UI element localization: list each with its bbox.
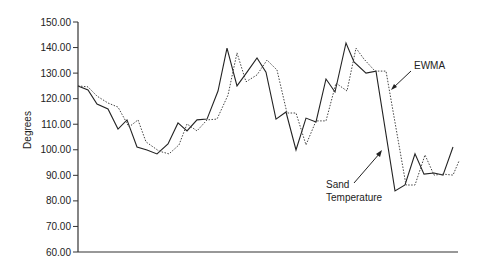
series-ewma <box>78 48 459 185</box>
series-sand-temperature <box>78 43 453 191</box>
y-tick-label: 110.00 <box>41 119 71 130</box>
y-tick-label: 130.00 <box>40 68 71 79</box>
y-tick-label: 140.00 <box>40 42 71 53</box>
y-tick-label: 60.00 <box>46 247 71 258</box>
y-tick-label: 90.00 <box>46 170 71 181</box>
line-chart: 150.00140.00130.00120.00110.00100.0090.0… <box>0 0 481 272</box>
arrow-ewma <box>393 71 411 88</box>
arrow-sand <box>354 153 380 183</box>
annotation-ewma: EWMA <box>414 60 445 71</box>
y-tick-label: 150.00 <box>40 17 71 28</box>
y-tick-label: 70.00 <box>46 221 71 232</box>
annotation-sand: Sand <box>326 179 349 190</box>
y-tick-label: 100.00 <box>40 144 71 155</box>
y-axis-ticks: 150.00140.00130.00120.00110.00100.0090.0… <box>40 17 78 258</box>
annotation-temperature: Temperature <box>326 192 383 203</box>
y-tick-label: 120.00 <box>40 93 71 104</box>
y-tick-label: 80.00 <box>46 195 71 206</box>
y-axis-label: Degrees <box>22 111 33 149</box>
